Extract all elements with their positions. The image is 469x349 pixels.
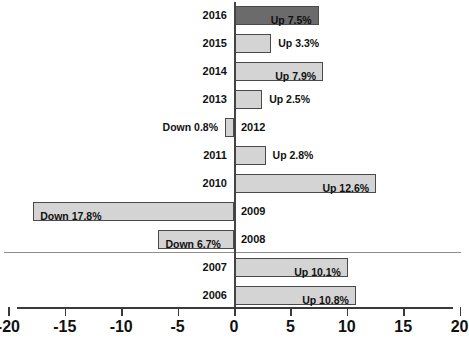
x-tick-label: -10 [110,318,133,336]
x-tick [8,307,10,316]
x-tick [234,307,236,316]
bar-2009[interactable]: Down 17.8% [33,202,234,221]
bar-2015[interactable] [234,34,271,53]
year-label-2008: 2008 [241,230,265,249]
year-label-2010: 2010 [203,174,227,193]
x-tick-label: 5 [286,318,295,336]
bar-2006[interactable]: Up 10.8% [234,286,356,305]
bar-row: Up 3.3%2015 [0,30,465,58]
bar-row: Up 12.6%2010 [0,170,465,198]
bar-value-label: Up 2.8% [273,146,314,165]
bar-value-label: Up 7.9% [275,67,316,86]
x-tick-label: -15 [53,318,76,336]
bar-row: Up 7.5%2016 [0,2,465,30]
bar-value-label: Up 2.5% [269,90,310,109]
plot-area: Up 7.5%2016Up 3.3%2015Up 7.9%2014Up 2.5%… [0,0,465,312]
bar-value-label: Up 12.6% [322,179,369,198]
bar-row: Up 10.1%2007 [0,254,465,282]
x-tick-label: 0 [230,318,239,336]
bar-row: Down 0.8%2012 [0,114,465,142]
bar-value-label: Up 7.5% [271,11,312,30]
x-tick-label: 10 [338,318,356,336]
x-tick [290,307,292,316]
year-label-2014: 2014 [203,62,227,81]
year-label-2011: 2011 [203,146,227,165]
bar-2013[interactable] [234,90,262,109]
bar-row: Up 7.9%2014 [0,58,465,86]
x-tick [460,307,462,316]
bar-2014[interactable]: Up 7.9% [234,62,323,81]
bar-2007[interactable]: Up 10.1% [234,258,348,277]
year-label-2006: 2006 [203,286,227,305]
bar-value-label: Down 0.8% [163,118,218,137]
x-tick-label: -5 [170,318,184,336]
year-label-2016: 2016 [203,6,227,25]
bar-value-label: Down 17.8% [40,207,101,226]
bar-row: Down 17.8%2009 [0,198,465,226]
year-label-2009: 2009 [241,202,265,221]
year-label-2013: 2013 [203,90,227,109]
x-tick [121,307,123,316]
bar-2012[interactable] [225,118,234,137]
bar-2010[interactable]: Up 12.6% [234,174,376,193]
bar-row: Up 2.8%2011 [0,142,465,170]
bar-2008[interactable]: Down 6.7% [158,230,234,249]
x-tick-label: 15 [394,318,412,336]
bar-row: Up 2.5%2013 [0,86,465,114]
year-label-2012: 2012 [241,118,265,137]
zero-baseline [234,2,236,307]
year-label-2007: 2007 [203,258,227,277]
x-tick-label: -20 [0,318,20,336]
bar-row: Down 6.7%2008 [0,226,465,254]
bar-2011[interactable] [234,146,266,165]
bar-row: Up 10.8%2006 [0,282,465,310]
category-separator-line [4,252,461,253]
x-tick [403,307,405,316]
bar-value-label: Up 3.3% [278,34,319,53]
year-label-2015: 2015 [203,34,227,53]
x-tick [65,307,67,316]
bar-2016[interactable]: Up 7.5% [234,6,319,25]
bar-value-label: Up 10.1% [294,263,341,282]
x-tick [178,307,180,316]
x-tick [347,307,349,316]
x-tick-label: 20 [451,318,469,336]
